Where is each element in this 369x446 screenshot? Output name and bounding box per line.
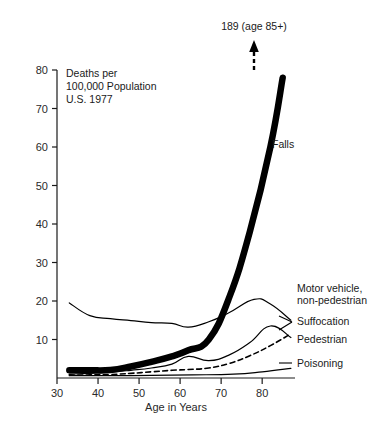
y-tick-label: 10 <box>36 334 48 346</box>
x-axis-title: Age in Years <box>145 401 207 413</box>
y-tick-label: 30 <box>36 257 48 269</box>
x-tick-label: 70 <box>215 387 227 399</box>
note-line-3: U.S. 1977 <box>66 93 113 105</box>
x-tick-label: 80 <box>256 387 268 399</box>
series-label-poisoning: Poisoning <box>297 357 343 369</box>
y-tick-label: 80 <box>36 64 48 76</box>
series-label-pedestrian: Pedestrian <box>297 333 347 345</box>
y-tick-label: 70 <box>36 103 48 115</box>
x-tick-label: 60 <box>174 387 186 399</box>
x-tick-label: 40 <box>92 387 104 399</box>
y-tick-label: 50 <box>36 180 48 192</box>
series-label-falls: Falls <box>272 138 294 150</box>
chart-container: 1020304050607080 304050607080 189 (age 8… <box>0 0 369 446</box>
note-line-1: Deaths per <box>66 67 118 79</box>
y-tick-label: 60 <box>36 141 48 153</box>
chart-background <box>0 0 369 446</box>
overflow-annotation: 189 (age 85+) <box>221 20 287 32</box>
x-tick-label: 30 <box>51 387 63 399</box>
x-tick-label: 50 <box>133 387 145 399</box>
series-label-motor-vehicle-line1: Motor vehicle, <box>297 282 362 294</box>
y-tick-label: 20 <box>36 295 48 307</box>
series-label-motor-vehicle-line2: non-pedestrian <box>297 294 367 306</box>
y-tick-label: 40 <box>36 218 48 230</box>
note-line-2: 100,000 Population <box>66 80 157 92</box>
series-label-suffocation: Suffocation <box>297 315 350 327</box>
deaths-by-age-line-chart: 1020304050607080 304050607080 189 (age 8… <box>0 0 369 446</box>
